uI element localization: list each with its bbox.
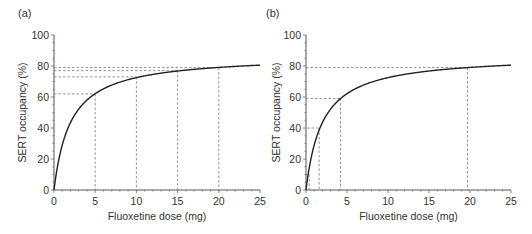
chart-canvas: (a)0204060801000510152025Fluoxetine dose…: [0, 0, 532, 234]
y-tick-label: 100: [283, 29, 301, 41]
x-tick-label: 25: [505, 195, 517, 207]
y-tick-label: 80: [289, 60, 301, 72]
y-tick-label: 20: [289, 153, 301, 165]
panel-label: (a): [18, 7, 31, 19]
occupancy-curve: [306, 65, 511, 190]
y-tick-label: 80: [37, 60, 49, 72]
occupancy-curve: [54, 65, 260, 190]
figure: (a)0204060801000510152025Fluoxetine dose…: [0, 0, 532, 234]
y-tick-label: 60: [289, 91, 301, 103]
y-tick-label: 60: [37, 91, 49, 103]
x-tick-label: 0: [51, 195, 57, 207]
x-tick-label: 15: [172, 195, 184, 207]
panel-b: (b)0204060801000510152025Fluoxetine dose…: [266, 7, 517, 222]
x-tick-label: 10: [382, 195, 394, 207]
x-tick-label: 10: [131, 195, 143, 207]
y-tick-label: 20: [37, 153, 49, 165]
x-axis-label: Fluoxetine dose (mg): [359, 210, 458, 222]
y-tick-label: 0: [43, 184, 49, 196]
x-tick-label: 5: [92, 195, 98, 207]
x-tick-label: 20: [213, 195, 225, 207]
panel-label: (b): [266, 7, 279, 19]
y-axis-label: SERT occupancy (%): [270, 63, 282, 163]
x-tick-label: 25: [254, 195, 266, 207]
y-tick-label: 0: [295, 184, 301, 196]
x-tick-label: 20: [464, 195, 476, 207]
y-tick-label: 40: [37, 122, 49, 134]
x-tick-label: 15: [423, 195, 435, 207]
y-tick-label: 100: [31, 29, 49, 41]
x-tick-label: 0: [303, 195, 309, 207]
panel-a: (a)0204060801000510152025Fluoxetine dose…: [16, 7, 266, 222]
y-axis-label: SERT occupancy (%): [16, 63, 28, 163]
x-axis-label: Fluoxetine dose (mg): [108, 210, 207, 222]
y-tick-label: 40: [289, 122, 301, 134]
x-tick-label: 5: [344, 195, 350, 207]
